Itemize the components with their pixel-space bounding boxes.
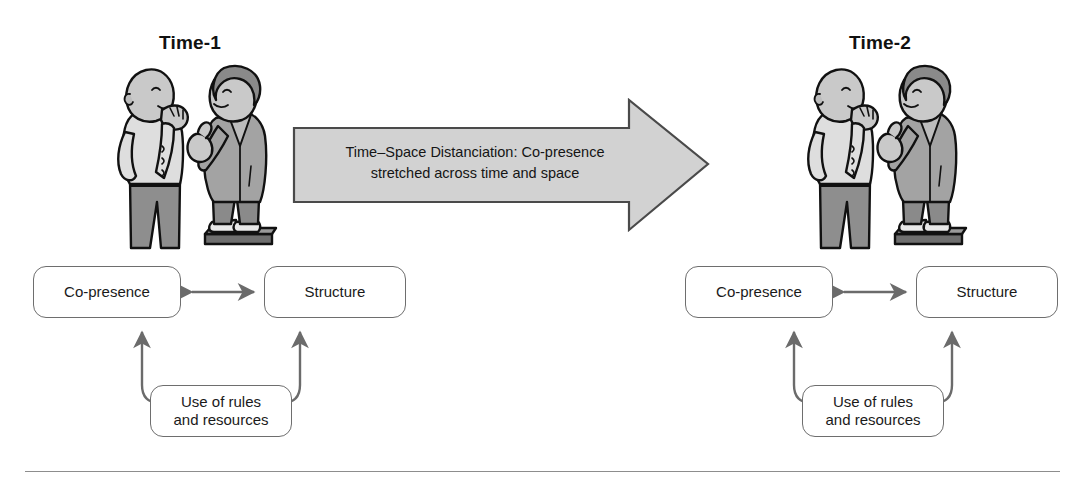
node-use-of-rules-time-2: Use of rules and resources bbox=[802, 385, 944, 437]
node-label-line-2: and resources bbox=[173, 411, 268, 428]
diagram-canvas: Time-1 bbox=[0, 0, 1091, 482]
arrow-caption-line-1: Time–Space Distanciation: Co-presence bbox=[310, 142, 640, 163]
node-structure-time-2: Structure bbox=[916, 266, 1058, 318]
node-label-line-2: and resources bbox=[825, 411, 920, 428]
arrow-caption-line-2: stretched across time and space bbox=[310, 163, 640, 184]
two-people-illustration-time-1 bbox=[100, 62, 280, 252]
two-people-illustration-time-2 bbox=[790, 62, 970, 252]
node-label: Structure bbox=[957, 283, 1018, 302]
time-2-label: Time-2 bbox=[790, 32, 970, 54]
node-label-line-1: Use of rules bbox=[181, 393, 261, 410]
structuration-cycle-time-1: Co-presence Structure Use of rules and r… bbox=[20, 262, 440, 447]
node-use-of-rules-time-1: Use of rules and resources bbox=[150, 385, 292, 437]
structuration-cycle-time-2: Co-presence Structure Use of rules and r… bbox=[672, 262, 1091, 447]
arrow-caption: Time–Space Distanciation: Co-presence st… bbox=[310, 142, 640, 184]
node-label-line-1: Use of rules bbox=[833, 393, 913, 410]
time-1-label: Time-1 bbox=[100, 32, 280, 54]
node-label: Co-presence bbox=[716, 283, 802, 302]
time-space-distanciation-arrow: Time–Space Distanciation: Co-presence st… bbox=[292, 98, 712, 253]
bottom-divider-rule bbox=[25, 471, 1060, 472]
node-structure-time-1: Structure bbox=[264, 266, 406, 318]
node-co-presence-time-1: Co-presence bbox=[33, 266, 181, 318]
people-scene-time-1 bbox=[100, 62, 280, 252]
node-co-presence-time-2: Co-presence bbox=[685, 266, 833, 318]
node-label: Co-presence bbox=[64, 283, 150, 302]
people-scene-time-2 bbox=[790, 62, 970, 252]
node-label: Use of rules and resources bbox=[825, 393, 920, 430]
node-label: Use of rules and resources bbox=[173, 393, 268, 430]
node-label: Structure bbox=[305, 283, 366, 302]
